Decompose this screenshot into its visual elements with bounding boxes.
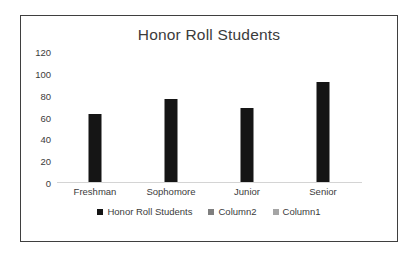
y-axis-tick-label: 100 xyxy=(35,68,51,79)
y-axis-tick-label: 40 xyxy=(40,134,51,145)
x-axis-tick-label: Junior xyxy=(234,186,260,197)
legend-swatch-icon xyxy=(208,209,214,215)
legend-label: Honor Roll Students xyxy=(107,206,192,217)
y-axis-tick-label: 120 xyxy=(35,47,51,58)
legend-entry[interactable]: Column2 xyxy=(208,206,256,217)
legend-swatch-icon xyxy=(97,209,103,215)
y-axis-tick-label: 60 xyxy=(40,112,51,123)
chart-container[interactable]: Honor Roll Students 120100806040200 Fres… xyxy=(20,15,398,242)
x-axis-tick-label: Senior xyxy=(309,186,336,197)
bar-slot xyxy=(57,57,133,182)
legend-label: Column2 xyxy=(218,206,256,217)
legend-swatch-icon xyxy=(273,209,279,215)
y-axis: 120100806040200 xyxy=(21,52,55,183)
chart-legend[interactable]: Honor Roll StudentsColumn2Column1 xyxy=(21,206,397,217)
legend-label: Column1 xyxy=(283,206,321,217)
x-axis-tick-label: Sophomore xyxy=(146,186,195,197)
legend-entry[interactable]: Honor Roll Students xyxy=(97,206,192,217)
y-axis-tick-label: 0 xyxy=(46,178,51,189)
bar[interactable] xyxy=(241,108,254,182)
bar-slot xyxy=(209,57,285,182)
y-axis-tick-label: 20 xyxy=(40,156,51,167)
category-axis-line xyxy=(57,182,362,183)
bar[interactable] xyxy=(165,99,178,182)
bar-slot xyxy=(133,57,209,182)
bar[interactable] xyxy=(89,114,102,182)
y-axis-tick-label: 80 xyxy=(40,90,51,101)
bar[interactable] xyxy=(317,82,330,182)
chart-title: Honor Roll Students xyxy=(21,26,397,44)
x-axis-tick-label: Freshman xyxy=(74,186,117,197)
bar-series-honor-roll-students xyxy=(57,57,361,182)
legend-entry[interactable]: Column1 xyxy=(273,206,321,217)
bar-slot xyxy=(285,57,361,182)
x-axis-labels: FreshmanSophomoreJuniorSenior xyxy=(57,186,361,202)
